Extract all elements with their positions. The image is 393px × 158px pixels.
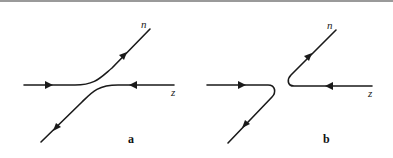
panel-a-arrow-in-z (129, 81, 137, 89)
panel-b-right-path (288, 30, 372, 86)
panel-a-label-z: z (170, 86, 176, 98)
panel-a-arrow-in-left (45, 81, 53, 89)
panel-b-label-z: z (367, 87, 373, 99)
diagram-canvas: n z a n z b (0, 0, 393, 158)
panel-b-label-n: n (327, 19, 333, 31)
panel-a-upper-path (24, 29, 150, 85)
panel-b-label: b (323, 132, 330, 146)
panel-a-label: a (128, 132, 134, 146)
panel-a: n z a (24, 18, 176, 146)
panel-a-lower-path (41, 85, 174, 142)
panel-b-left-path (207, 85, 275, 143)
panel-b-arrow-in-left (238, 81, 246, 89)
panel-a-label-n: n (141, 18, 147, 30)
panel-b: n z b (207, 19, 373, 146)
panel-b-arrow-in-z (325, 82, 333, 90)
